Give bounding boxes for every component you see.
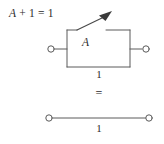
top-circuit-value-label: 1 — [84, 68, 114, 80]
boolean-switching-circuit-figure: A + 1 = 1 — [0, 0, 164, 144]
switch-arrow-head-icon — [99, 11, 112, 21]
equals-sign: = — [84, 86, 114, 101]
bottom-left-terminal-icon — [46, 115, 52, 121]
top-left-terminal-icon — [48, 46, 54, 52]
switch-label-a: A — [82, 36, 89, 48]
switch-arm — [77, 17, 104, 30]
bottom-right-terminal-icon — [146, 115, 152, 121]
circuit-drawing — [0, 0, 164, 144]
bottom-circuit-value-label: 1 — [84, 122, 114, 134]
top-right-terminal-icon — [143, 46, 149, 52]
